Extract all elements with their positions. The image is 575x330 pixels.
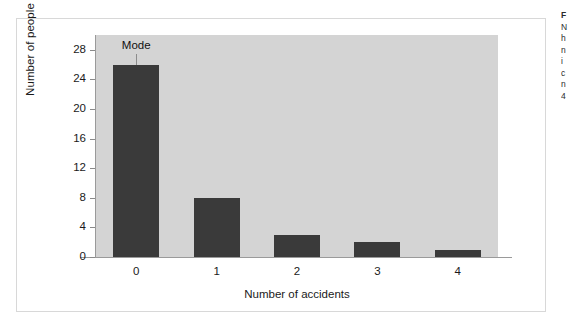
y-tick-mark bbox=[90, 109, 95, 110]
chart-figure: 0481216202428 01234 Number of people Num… bbox=[0, 0, 575, 330]
y-tick-label: 8 bbox=[58, 192, 86, 204]
y-tick-mark bbox=[90, 139, 95, 140]
y-tick-label: 0 bbox=[58, 251, 86, 263]
y-tick-label-text: 0 bbox=[58, 251, 86, 263]
caption-line: n bbox=[561, 45, 575, 57]
y-tick-label: 20 bbox=[58, 103, 86, 115]
y-tick-label: 16 bbox=[58, 133, 86, 145]
y-tick-label-text: 28 bbox=[58, 44, 86, 56]
y-tick-label: 4 bbox=[58, 221, 86, 233]
y-tick-label-text: 20 bbox=[58, 103, 86, 115]
bar-series bbox=[96, 35, 498, 257]
caption-line: c bbox=[561, 68, 575, 80]
bar bbox=[113, 65, 159, 257]
caption-line: F bbox=[561, 10, 575, 22]
y-tick-label-text: 8 bbox=[58, 192, 86, 204]
x-tick-label: 2 bbox=[277, 266, 317, 278]
bar bbox=[435, 250, 481, 257]
mode-annotation-label: Mode bbox=[96, 40, 176, 52]
x-axis-line bbox=[80, 257, 512, 258]
caption-text-sliver: FNhnicn4 bbox=[561, 10, 575, 100]
caption-line: h bbox=[561, 33, 575, 45]
x-tick-label: 0 bbox=[116, 266, 156, 278]
caption-line: i bbox=[561, 56, 575, 68]
bar bbox=[274, 235, 320, 257]
y-axis-title: Number of people bbox=[24, 3, 36, 96]
y-tick-mark bbox=[90, 257, 95, 258]
x-axis-title: Number of accidents bbox=[96, 288, 498, 300]
y-tick-label-text: 24 bbox=[58, 73, 86, 85]
y-tick-label: 12 bbox=[58, 162, 86, 174]
y-tick-label: 28 bbox=[58, 44, 86, 56]
y-tick-label-text: 16 bbox=[58, 133, 86, 145]
y-tick-label: 24 bbox=[58, 73, 86, 85]
x-tick-label: 3 bbox=[357, 266, 397, 278]
x-tick-label: 4 bbox=[438, 266, 478, 278]
caption-line: n bbox=[561, 79, 575, 91]
y-tick-mark bbox=[90, 227, 95, 228]
y-tick-mark bbox=[90, 198, 95, 199]
y-tick-mark bbox=[90, 168, 95, 169]
caption-line: 4 bbox=[561, 91, 575, 101]
y-tick-mark bbox=[90, 50, 95, 51]
y-tick-mark bbox=[90, 79, 95, 80]
bar bbox=[354, 242, 400, 257]
x-tick-label: 1 bbox=[197, 266, 237, 278]
mode-leader-line bbox=[136, 54, 137, 65]
y-tick-label-text: 4 bbox=[58, 221, 86, 233]
y-tick-label-text: 12 bbox=[58, 162, 86, 174]
bar bbox=[194, 198, 240, 257]
caption-line: N bbox=[561, 22, 575, 34]
